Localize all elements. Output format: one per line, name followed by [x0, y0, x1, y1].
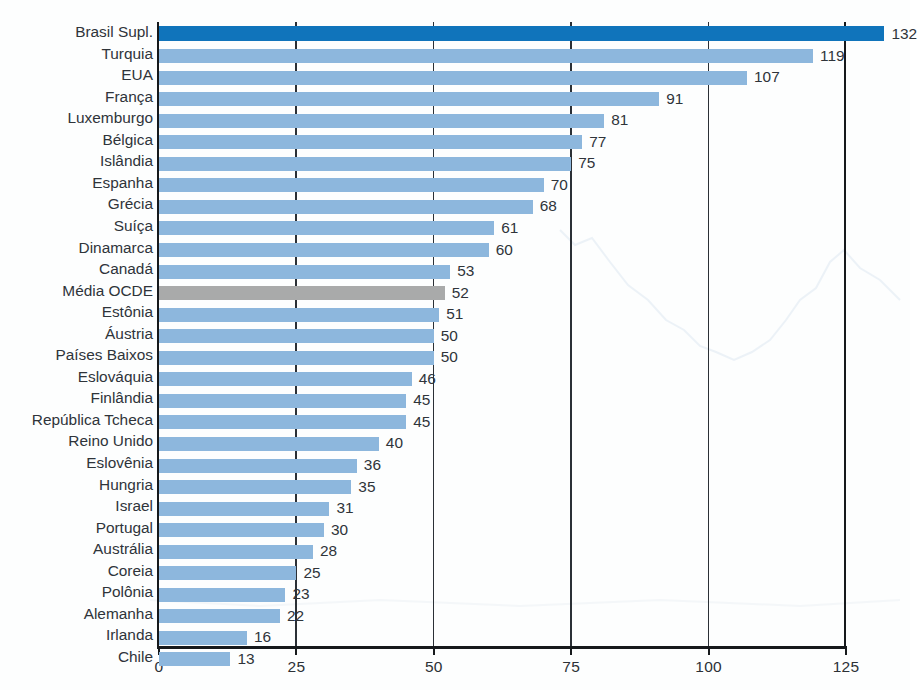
bar-value-label: 23 [292, 585, 309, 603]
category-label: Irlanda [0, 627, 153, 642]
bar-normal [159, 308, 439, 322]
category-label: República Tcheca [0, 412, 153, 427]
bar-value-label: 52 [452, 284, 469, 302]
chart-row: Portugal30 [0, 520, 910, 542]
bar-value-label: 35 [358, 478, 375, 496]
category-label: Grécia [0, 196, 153, 211]
bar-normal [159, 114, 604, 128]
category-label: Chile [0, 649, 153, 664]
bar-value-label: 36 [364, 456, 381, 474]
chart-row: Dinamarca60 [0, 240, 910, 262]
bar-value-label: 51 [446, 305, 463, 323]
chart-row: França91 [0, 89, 910, 111]
bar-normal [159, 351, 434, 365]
bar-normal [159, 459, 357, 473]
category-label: Eslováquia [0, 369, 153, 384]
bar-value-label: 91 [666, 90, 683, 108]
chart-row: Estônia51 [0, 304, 910, 326]
bar-value-label: 40 [386, 434, 403, 452]
chart-row: Turquia119 [0, 46, 910, 68]
category-label: EUA [0, 67, 153, 82]
bar-average [159, 286, 445, 300]
bar-normal [159, 157, 571, 171]
chart-row: Espanha70 [0, 175, 910, 197]
bar-normal [159, 609, 280, 623]
bar-normal [159, 631, 247, 645]
category-label: Coreia [0, 563, 153, 578]
chart-row: Chile13 [0, 649, 910, 671]
chart-row: Irlanda16 [0, 627, 910, 649]
bar-value-label: 50 [441, 348, 458, 366]
bar-value-label: 77 [589, 133, 606, 151]
bar-value-label: 53 [457, 262, 474, 280]
category-label: Países Baixos [0, 347, 153, 362]
bar-value-label: 25 [303, 564, 320, 582]
bar-value-label: 60 [496, 241, 513, 259]
bar-normal [159, 566, 296, 580]
category-label: Dinamarca [0, 240, 153, 255]
bar-normal [159, 92, 659, 106]
bar-value-label: 119 [820, 47, 845, 65]
bar-value-label: 81 [611, 111, 628, 129]
bar-value-label: 30 [331, 521, 348, 539]
bar-normal [159, 545, 313, 559]
bar-normal [159, 178, 544, 192]
category-label: Israel [0, 498, 153, 513]
chart-row: Finlândia45 [0, 390, 910, 412]
chart-row: Canadá53 [0, 261, 910, 283]
bar-normal [159, 394, 406, 408]
chart-row: Austrália28 [0, 541, 910, 563]
chart-row: Alemanha22 [0, 606, 910, 628]
bar-value-label: 22 [287, 607, 304, 625]
bar-value-label: 70 [551, 176, 568, 194]
bar-normal [159, 480, 351, 494]
chart-row: Bélgica77 [0, 132, 910, 154]
bar-normal [159, 437, 379, 451]
chart-row: República Tcheca45 [0, 412, 910, 434]
category-label: Hungria [0, 477, 153, 492]
bar-value-label: 28 [320, 542, 337, 560]
bar-normal [159, 243, 489, 257]
bar-normal [159, 329, 434, 343]
bar-normal [159, 415, 406, 429]
bar-normal [159, 502, 329, 516]
category-label: Luxemburgo [0, 110, 153, 125]
chart-row: Israel31 [0, 498, 910, 520]
category-label: Portugal [0, 520, 153, 535]
category-label: Alemanha [0, 606, 153, 621]
category-label: Eslovênia [0, 455, 153, 470]
category-label: Polônia [0, 584, 153, 599]
chart-row: Reino Unido40 [0, 433, 910, 455]
chart-row: Luxemburgo81 [0, 110, 910, 132]
bar-value-label: 31 [336, 499, 353, 517]
bar-normal [159, 49, 813, 63]
chart-row: Países Baixos50 [0, 347, 910, 369]
bar-value-label: 45 [413, 413, 430, 431]
category-label: Turquia [0, 46, 153, 61]
category-label: Média OCDE [0, 283, 153, 298]
category-label: Áustria [0, 326, 153, 341]
category-label: Austrália [0, 541, 153, 556]
bar-highlight [159, 26, 884, 41]
bar-normal [159, 71, 747, 85]
category-label: Brasil Supl. [0, 24, 153, 39]
bar-value-label: 50 [441, 327, 458, 345]
bar-normal [159, 221, 494, 235]
bar-value-label: 107 [754, 68, 780, 86]
category-label: Bélgica [0, 132, 153, 147]
chart-row: Eslovênia36 [0, 455, 910, 477]
chart-row: Polônia23 [0, 584, 910, 606]
bar-value-label: 45 [413, 391, 430, 409]
chart-row: Áustria50 [0, 326, 910, 348]
category-label: Finlândia [0, 390, 153, 405]
bar-value-label: 68 [540, 197, 557, 215]
bar-normal [159, 200, 533, 214]
bar-normal [159, 135, 582, 149]
chart-row: Islândia75 [0, 153, 910, 175]
bar-normal [159, 372, 412, 386]
category-label: Reino Unido [0, 433, 153, 448]
bar-value-label: 46 [419, 370, 436, 388]
chart-row: Média OCDE52 [0, 283, 910, 305]
category-label: Canadá [0, 261, 153, 276]
